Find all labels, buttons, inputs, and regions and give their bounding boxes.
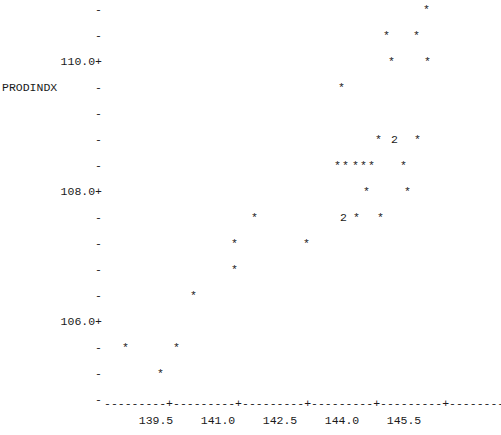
- plot-row: 110.0+**: [0, 49, 501, 75]
- plot-row: -: [0, 101, 501, 127]
- y-axis-tick-mark: -: [40, 257, 102, 283]
- plot-row: 106.0+: [0, 309, 501, 335]
- plot-row: -2***: [0, 205, 501, 231]
- y-axis-tick-mark: -: [40, 231, 102, 257]
- ascii-scatter-plot: -*-**110.0+**PRODINDX-*--*2*-******108.0…: [0, 0, 501, 435]
- x-axis-tick-label: 141.0: [201, 413, 236, 429]
- data-point-marker: *: [303, 231, 310, 257]
- data-point-marker: *: [400, 153, 407, 179]
- data-point-marker: *: [423, 0, 430, 23]
- data-point-marker: *: [363, 179, 370, 205]
- plot-row: -**: [0, 23, 501, 49]
- data-point-marker: *: [231, 257, 238, 283]
- data-point-marker: *: [173, 335, 180, 361]
- y-axis-tick-mark: -: [40, 0, 102, 23]
- data-point-marker: *: [157, 361, 164, 387]
- y-axis-tick-mark: -: [40, 101, 102, 127]
- y-axis-tick-label: 110.0+: [40, 49, 102, 75]
- data-point-marker: *: [122, 335, 129, 361]
- x-axis-tick-label: 145.5: [387, 413, 422, 429]
- plot-row: -*: [0, 0, 501, 23]
- x-axis-tick-label: 144.0: [325, 413, 360, 429]
- data-point-marker: *: [424, 49, 431, 75]
- y-axis-tick-label: 108.0+: [40, 179, 102, 205]
- data-point-marker: *: [231, 231, 238, 257]
- data-point-marker: *: [383, 23, 390, 49]
- plot-row: -*2*: [0, 127, 501, 153]
- plot-row: -**: [0, 335, 501, 361]
- data-point-marker: *: [377, 205, 384, 231]
- data-point-marker: *: [190, 283, 197, 309]
- data-point-marker: *: [413, 23, 420, 49]
- x-tick-label-group: 139.5141.0142.5144.0145.5: [0, 413, 501, 429]
- data-point-marker: *: [414, 127, 421, 153]
- plot-row: 108.0+**: [0, 179, 501, 205]
- plot-row: -******: [0, 153, 501, 179]
- x-axis-line: ---------+---------+---------+---------+…: [104, 396, 501, 412]
- data-point-marker: *: [342, 153, 349, 179]
- y-axis-tick-mark: -: [40, 153, 102, 179]
- data-point-marker: *: [338, 75, 345, 101]
- data-point-marker: *: [360, 153, 367, 179]
- data-point-marker: *: [251, 205, 258, 231]
- data-point-marker: *: [375, 127, 382, 153]
- plot-row: -*: [0, 283, 501, 309]
- y-axis-tick-mark: -: [40, 283, 102, 309]
- data-point-marker: *: [368, 153, 375, 179]
- data-point-marker: *: [334, 153, 341, 179]
- x-axis-tick-label: 142.5: [263, 413, 298, 429]
- y-axis-tick-mark: -: [40, 127, 102, 153]
- y-axis-tick-mark: -: [40, 23, 102, 49]
- x-axis-tick-label: 139.5: [139, 413, 174, 429]
- data-point-marker: *: [352, 153, 359, 179]
- data-point-marker: *: [404, 179, 411, 205]
- y-axis-tick-mark: -: [40, 205, 102, 231]
- data-point-marker: *: [388, 49, 395, 75]
- data-point-count-marker: 2: [340, 205, 347, 231]
- y-axis-tick-mark: -: [40, 361, 102, 387]
- y-axis-tick-mark: -: [40, 387, 102, 413]
- data-point-marker: *: [353, 205, 360, 231]
- y-axis-tick-label: 106.0+: [40, 309, 102, 335]
- plot-row: -**: [0, 231, 501, 257]
- y-axis-tick-mark: -: [40, 335, 102, 361]
- y-axis-tick-mark: -: [40, 75, 102, 101]
- plot-row: PRODINDX-*: [0, 75, 501, 101]
- plot-row: -*: [0, 257, 501, 283]
- data-point-count-marker: 2: [391, 127, 398, 153]
- plot-row: -*: [0, 361, 501, 387]
